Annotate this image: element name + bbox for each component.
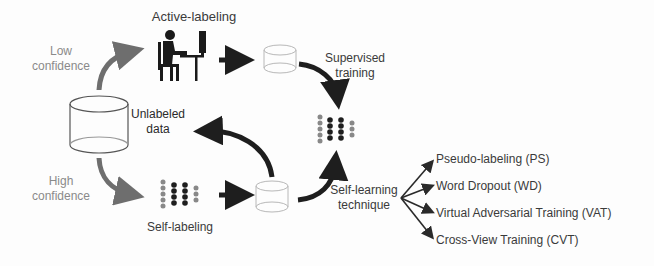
person-at-computer-icon (158, 30, 206, 81)
self-learning-technique-label: Self-learning technique (326, 183, 402, 213)
technique-fan-arrows (401, 162, 432, 237)
model-neural-network-icon (318, 115, 355, 144)
self-labeling-label: Self-labeling (140, 220, 220, 235)
self-learning-line1: Self-learning (326, 183, 402, 198)
low-confidence-line2: confidence (28, 59, 94, 74)
to-unlabeled-data-arrow (208, 131, 272, 177)
self-learning-diagram: Active-labeling Low confidence Supervise… (0, 0, 654, 266)
unlabeled-data-line2: data (127, 122, 189, 137)
high-confidence-arrow (99, 158, 130, 194)
self-learning-line2: technique (326, 198, 402, 213)
unlabeled-data-line1: Unlabeled (127, 107, 189, 122)
supervised-training-line1: Supervised (320, 51, 390, 66)
high-confidence-line2: confidence (28, 189, 94, 204)
active-labeling-label: Active-labeling (142, 9, 246, 24)
self-labeled-data-cylinder-icon (256, 181, 288, 212)
low-confidence-line1: Low (28, 44, 94, 59)
low-confidence-label: Low confidence (28, 44, 94, 74)
supervised-training-line2: training (320, 66, 390, 81)
active-labeled-data-cylinder-icon (264, 45, 296, 73)
diagram-graphics (0, 0, 654, 266)
high-confidence-line1: High (28, 174, 94, 189)
technique-virtual-adversarial-training: Virtual Adversarial Training (VAT) (436, 206, 611, 221)
high-confidence-label: High confidence (28, 174, 94, 204)
technique-pseudo-labeling: Pseudo-labeling (PS) (436, 152, 549, 167)
low-confidence-arrow (99, 52, 130, 90)
technique-cross-view-training: Cross-View Training (CVT) (436, 233, 578, 248)
supervised-training-label: Supervised training (320, 51, 390, 81)
unlabeled-data-cylinder-icon (70, 96, 128, 153)
self-labeling-neural-network-icon (161, 180, 199, 209)
unlabeled-data-label: Unlabeled data (127, 107, 189, 137)
technique-word-dropout: Word Dropout (WD) (436, 179, 542, 194)
